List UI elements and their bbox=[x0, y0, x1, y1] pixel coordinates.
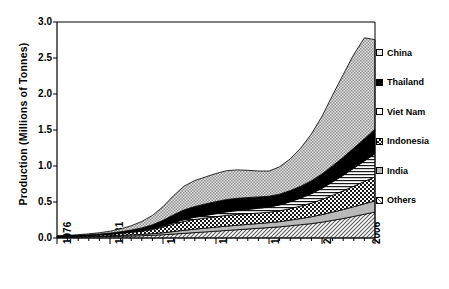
legend-label: India bbox=[387, 166, 408, 176]
legend-swatch-others bbox=[376, 197, 383, 204]
legend-item-china[interactable]: China bbox=[376, 38, 449, 68]
legend-item-others[interactable]: Others bbox=[376, 186, 449, 216]
legend-label: Thailand bbox=[387, 77, 424, 87]
legend-label: Others bbox=[387, 195, 416, 205]
legend-label: Viet Nam bbox=[387, 107, 425, 117]
legend: China Thailand Viet Nam Indonesia India … bbox=[376, 38, 449, 215]
figure: Production (Millions of Tonnes) 3.0 2.5 … bbox=[0, 0, 449, 289]
legend-swatch-india bbox=[376, 167, 383, 174]
legend-label: Indonesia bbox=[387, 136, 429, 146]
legend-swatch-china bbox=[376, 49, 383, 56]
legend-swatch-viet-nam bbox=[376, 108, 383, 115]
legend-item-thailand[interactable]: Thailand bbox=[376, 68, 449, 98]
legend-swatch-indonesia bbox=[376, 138, 383, 145]
legend-item-viet-nam[interactable]: Viet Nam bbox=[376, 97, 449, 127]
legend-item-india[interactable]: India bbox=[376, 156, 449, 186]
legend-label: China bbox=[387, 48, 412, 58]
legend-item-indonesia[interactable]: Indonesia bbox=[376, 127, 449, 157]
legend-swatch-thailand bbox=[376, 79, 383, 86]
